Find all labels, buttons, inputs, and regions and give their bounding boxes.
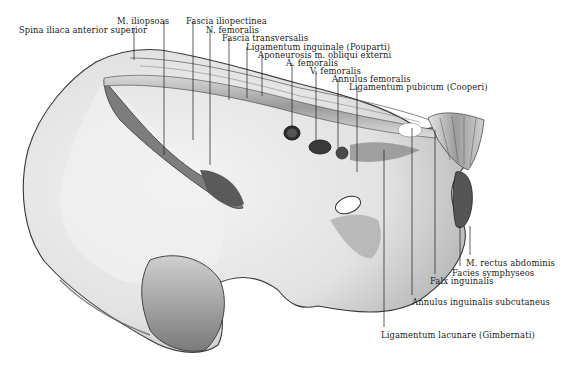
label-ligamentum-lacunare: Ligamentum lacunare (Gimbernati) (381, 331, 535, 339)
anatomical-figure: Spina iliaca anterior superior M. iliops… (0, 0, 562, 368)
label-annulus-inguinalis-subcutaneus: Annulus inguinalis subcutaneus (412, 298, 550, 306)
label-spina-iliaca-anterior-superior: Spina iliaca anterior superior (19, 26, 147, 34)
label-falx-inguinalis: Falx inguinalis (430, 277, 493, 285)
label-m-rectus-abdominis: M. rectus abdominis (466, 259, 555, 267)
label-m-iliopsoas: M. iliopsoas (117, 17, 169, 25)
label-ligamentum-pubicum: Ligamentum pubicum (Cooperi) (349, 83, 488, 91)
